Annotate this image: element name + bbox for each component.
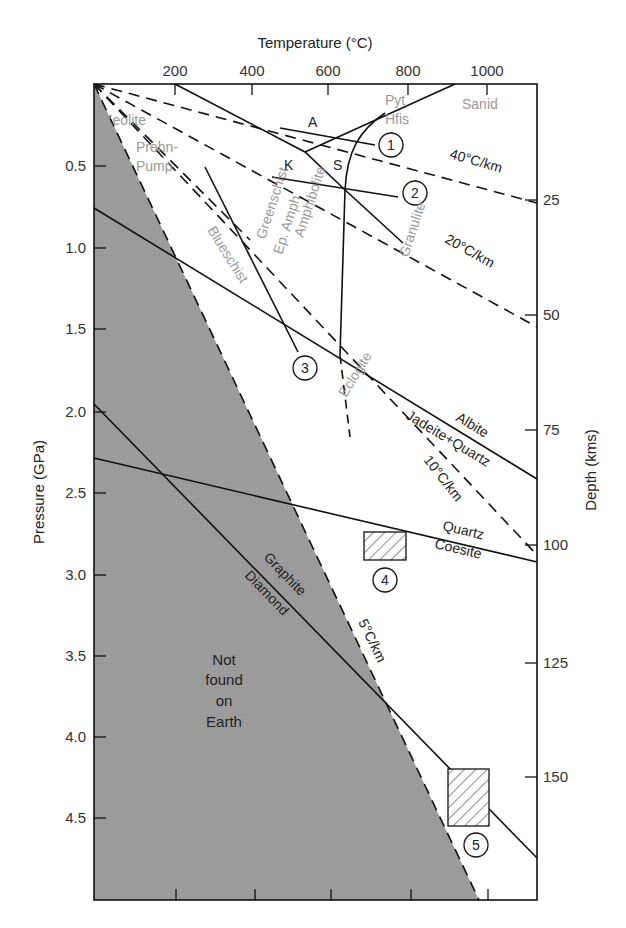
x-tick-400: 400 xyxy=(239,62,264,79)
marker-5-label: 5 xyxy=(472,837,480,853)
y2-tick: 150 xyxy=(543,768,568,785)
melting-curve xyxy=(340,113,385,355)
y-tick: 2.5 xyxy=(65,484,86,501)
y-tick: 3.5 xyxy=(65,647,86,664)
pyt-label: Pyt xyxy=(385,92,405,108)
y-tick: 3.0 xyxy=(65,566,86,583)
y2-tick: 50 xyxy=(543,306,560,323)
marker-5: 5 xyxy=(464,833,488,857)
x-tick-labels: 200 400 600 800 1000 xyxy=(162,62,503,79)
zeolite-label: Zeolite xyxy=(104,112,146,128)
marker-1-label: 1 xyxy=(387,137,395,153)
andalusite-label: A xyxy=(308,114,318,130)
marker-2-label: 2 xyxy=(411,185,419,201)
region-line-4: Earth xyxy=(206,713,242,730)
x-tick-600: 600 xyxy=(315,62,340,79)
y2-tick: 75 xyxy=(543,421,560,438)
hfis-label: Hfis xyxy=(385,111,409,127)
geotherm-20-label: 20°C/km xyxy=(443,231,498,271)
sillimanite-label: S xyxy=(333,157,342,173)
kyanite-label: K xyxy=(284,157,294,173)
x-tick-200: 200 xyxy=(162,62,187,79)
y-axis-title: Pressure (GPa) xyxy=(30,440,47,544)
blueschist-label: Blueschist xyxy=(204,223,251,286)
y-tick: 2.0 xyxy=(65,403,86,420)
marker-4: 4 xyxy=(373,568,397,592)
y2-tick-labels: 25 50 75 100 125 150 xyxy=(543,191,568,785)
y2-tick: 100 xyxy=(543,536,568,553)
box-4 xyxy=(364,532,406,560)
y-tick: 0.5 xyxy=(65,157,86,174)
marker-1: 1 xyxy=(379,133,403,157)
geotherm-10-label: 10°C/km xyxy=(421,452,467,504)
marker-3-label: 3 xyxy=(301,360,309,376)
x-tick-800: 800 xyxy=(395,62,420,79)
geotherm-40-label: 40°C/km xyxy=(448,146,504,176)
y2-axis-title: Depth (kms) xyxy=(582,429,599,511)
y-tick: 1.0 xyxy=(65,239,86,256)
y-tick: 4.0 xyxy=(65,728,86,745)
reaction-3-line xyxy=(205,167,298,352)
y-tick-labels: 0.5 1.0 1.5 2.0 2.5 3.0 3.5 4.0 4.5 xyxy=(65,157,86,826)
region-line-3: on xyxy=(216,692,233,709)
prehn-label: Prehn- xyxy=(136,139,178,155)
marker-4-label: 4 xyxy=(381,572,389,588)
marker-3: 3 xyxy=(293,356,317,380)
box-5-hatch xyxy=(448,769,489,826)
sanid-label: Sanid xyxy=(462,96,498,112)
region-line-1: Not xyxy=(212,651,236,668)
x-tick-1000: 1000 xyxy=(470,62,503,79)
x-axis-title: Temperature (°C) xyxy=(257,34,372,51)
y-tick: 1.5 xyxy=(65,320,86,337)
region-line-2: found xyxy=(205,671,243,688)
y-tick: 4.5 xyxy=(65,809,86,826)
granulite-label: Granulite xyxy=(396,200,429,259)
pump-label: Pump xyxy=(136,158,173,174)
y2-tick: 25 xyxy=(543,191,560,208)
pt-diagram: 200 400 600 800 1000 0.5 1.0 1.5 2.0 2.5… xyxy=(0,0,626,928)
y2-tick: 125 xyxy=(543,654,568,671)
eclogite-label: Eclogite xyxy=(335,349,375,400)
y2-ticks xyxy=(525,200,537,777)
